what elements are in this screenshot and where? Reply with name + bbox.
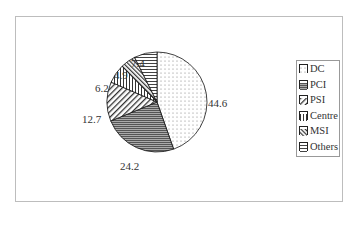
legend-label: PCI [310,79,326,90]
slice-label: 24.2 [120,160,139,172]
legend-item: PCI [297,77,339,93]
legend-item: Others [297,139,339,155]
legend-swatch [299,142,308,151]
slice-label: 44.6 [208,97,227,109]
legend-swatch [299,111,308,120]
legend-label: DC [310,63,325,74]
slice-label: 6.2 [95,82,109,94]
legend-item: Centre [297,108,339,124]
legend-label: Others [310,141,338,152]
legend-item: MSI [297,123,339,139]
slice-label: 4.9 [114,69,128,81]
legend-item: PSI [297,92,339,108]
legend-swatch [299,64,308,73]
legend-label: Centre [310,110,338,121]
legend-swatch [299,126,308,135]
chart-legend: DCPCIPSICentreMSIOthers [296,60,340,157]
legend-label: PSI [310,94,325,105]
slice-label: 12.7 [82,113,101,125]
legend-label: MSI [310,125,329,136]
legend-swatch [299,95,308,104]
slice-label: 7.4 [131,57,145,69]
legend-swatch [299,80,308,89]
legend-item: DC [297,61,339,77]
